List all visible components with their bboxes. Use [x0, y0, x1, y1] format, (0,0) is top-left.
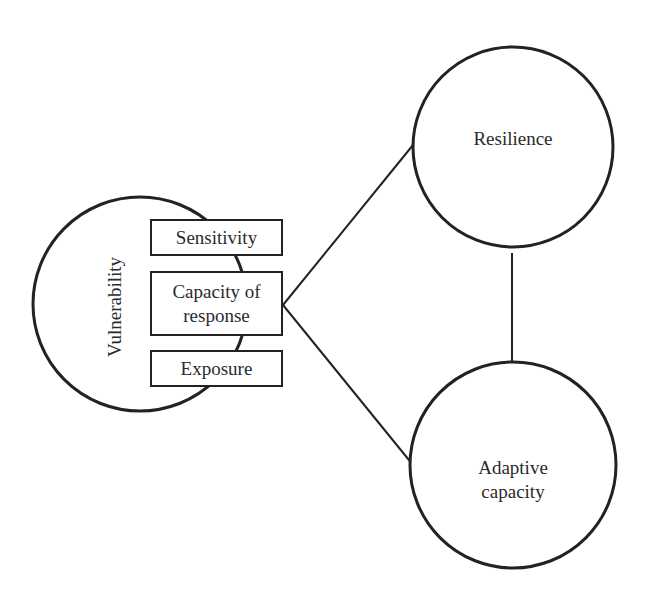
diagram-canvas	[0, 0, 652, 603]
edge-capacity-to-resilience	[283, 145, 413, 305]
exposure-label: Exposure	[181, 357, 253, 381]
sensitivity-label: Sensitivity	[176, 226, 257, 250]
capacity-of-response-label-line1: Capacity of	[172, 280, 260, 304]
adaptive-capacity-label-line1: Adaptive	[453, 456, 573, 480]
capacity-of-response-label-line2: response	[183, 304, 249, 328]
resilience-label: Resilience	[453, 127, 573, 151]
vulnerability-label: Vulnerability	[103, 247, 127, 367]
edge-capacity-to-adaptive-capacity	[283, 305, 413, 465]
adaptive-capacity-label-line2: capacity	[453, 480, 573, 504]
capacity-of-response-box: Capacity of response	[150, 271, 283, 336]
exposure-box: Exposure	[150, 350, 283, 387]
sensitivity-box: Sensitivity	[150, 219, 283, 256]
